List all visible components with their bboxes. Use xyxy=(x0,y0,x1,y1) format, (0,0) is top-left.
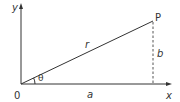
angle-theta-label: θ xyxy=(38,73,44,83)
point-p-label: P xyxy=(155,13,161,23)
y-axis-label: y xyxy=(12,3,18,13)
adjacent-a-label: a xyxy=(87,90,93,100)
hypotenuse-r-label: r xyxy=(85,40,89,50)
origin-label: 0 xyxy=(14,91,20,101)
y-axis xyxy=(19,3,23,84)
y-axis-arrowhead-icon xyxy=(19,3,23,9)
polar-coordinate-diagram: y x 0 P r a b θ xyxy=(0,0,180,102)
opposite-b-label: b xyxy=(157,49,163,59)
x-axis-label: x xyxy=(166,91,172,101)
angle-arc xyxy=(34,78,35,84)
x-axis-arrowhead-icon xyxy=(166,82,172,86)
